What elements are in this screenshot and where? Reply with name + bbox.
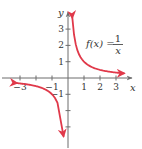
- x-tick-label: 3: [113, 82, 119, 92]
- y-tick-label: 2: [58, 40, 64, 50]
- fraction-denominator: x: [115, 45, 121, 56]
- y-tick-label: 3: [58, 24, 64, 34]
- svg-text:f(x) =: f(x) =: [85, 38, 115, 49]
- function-lhs: f(x) =: [85, 38, 115, 49]
- function-curves: [17, 18, 124, 137]
- x-tick-label: 2: [97, 82, 103, 92]
- y-tick-label: 1: [58, 57, 64, 67]
- function-label: f(x) = 1 x: [85, 33, 123, 56]
- fraction-numerator: 1: [115, 33, 121, 44]
- reciprocal-function-graph: −3−1123−1123 x y f(x) = 1 x: [0, 0, 142, 149]
- x-axis-label: x: [130, 82, 136, 93]
- x-tick-label: 1: [81, 82, 87, 92]
- y-axis-label: y: [57, 7, 64, 18]
